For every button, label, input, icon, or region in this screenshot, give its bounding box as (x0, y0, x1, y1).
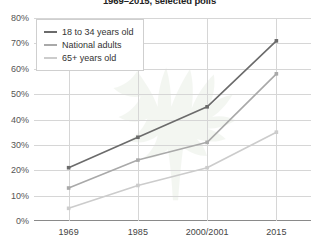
y-tick-label: 30% (11, 140, 29, 150)
data-point[interactable] (136, 135, 140, 139)
legend-item-65-plus[interactable]: 65+ years old (44, 51, 134, 64)
y-tick-label: 80% (11, 13, 29, 23)
series-line-national-adults (69, 74, 277, 188)
chart-title: 1969–2015, selected polls (0, 0, 319, 6)
x-tick-label: 2000/2001 (186, 227, 229, 237)
data-point[interactable] (205, 141, 209, 145)
data-point[interactable] (67, 186, 71, 190)
y-tick-label: 60% (11, 64, 29, 74)
y-tick-label: 40% (11, 115, 29, 125)
data-point[interactable] (275, 39, 279, 43)
legend-label: National adults (62, 40, 122, 50)
legend-item-18-34[interactable]: 18 to 34 years old (44, 25, 134, 38)
data-point[interactable] (67, 207, 71, 211)
y-tick-label: 20% (11, 165, 29, 175)
y-tick-label: 50% (11, 89, 29, 99)
data-point[interactable] (136, 158, 140, 162)
data-point[interactable] (136, 184, 140, 188)
data-point[interactable] (275, 72, 279, 76)
legend-item-national-adults[interactable]: National adults (44, 38, 134, 51)
y-tick-label: 0% (16, 216, 29, 226)
legend-swatch-18-34 (44, 31, 57, 33)
legend-label: 65+ years old (62, 53, 116, 63)
legend-label: 18 to 34 years old (62, 27, 134, 37)
chart-container: 1969–2015, selected polls 80% 70% 60% (0, 0, 319, 241)
x-tick-label: 1969 (59, 227, 79, 237)
data-point[interactable] (67, 166, 71, 170)
data-point[interactable] (275, 130, 279, 134)
y-tick-label: 10% (11, 191, 29, 201)
y-tick-label: 70% (11, 38, 29, 48)
data-point[interactable] (205, 166, 209, 170)
data-point[interactable] (205, 105, 209, 109)
series-line-65-years-old (69, 132, 277, 208)
x-tick-label: 1985 (128, 227, 148, 237)
legend-swatch-national-adults (44, 44, 57, 46)
chart-legend: 18 to 34 years old National adults 65+ y… (36, 19, 144, 71)
x-tick-label: 2015 (266, 227, 286, 237)
legend-swatch-65-plus (44, 57, 57, 59)
